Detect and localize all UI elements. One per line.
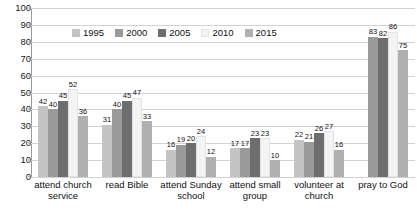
bar[interactable] xyxy=(378,38,388,177)
bar[interactable] xyxy=(68,89,78,177)
bar-chart: 0102030405060708090100 19952000200520102… xyxy=(0,0,417,221)
bar[interactable] xyxy=(186,143,196,177)
bar-groups: 4240455236314045473316192024121717232310… xyxy=(31,8,415,177)
bar[interactable] xyxy=(304,142,314,177)
bar[interactable] xyxy=(270,160,280,177)
bar-slot: 17 xyxy=(230,8,240,177)
bar-group: 83828675 xyxy=(351,8,415,177)
bar[interactable] xyxy=(58,101,68,177)
bar[interactable] xyxy=(240,148,250,177)
x-category-label: read Bible xyxy=(95,180,159,201)
bar-value-label: 12 xyxy=(207,148,215,156)
bar-slot: 33 xyxy=(142,8,152,177)
bar[interactable] xyxy=(38,106,48,177)
bar-value-label: 17 xyxy=(231,140,239,148)
bar-value-label: 40 xyxy=(49,101,57,109)
bar-value-label: 20 xyxy=(187,135,195,143)
bar-value-label: 31 xyxy=(103,116,111,124)
bar-value-label: 22 xyxy=(295,131,303,139)
bar-slot: 23 xyxy=(260,8,270,177)
bar-group: 1619202412 xyxy=(159,8,223,177)
bar-group: 1717232310 xyxy=(223,8,287,177)
bar-value-label: 21 xyxy=(305,133,313,141)
bar-slot: 42 xyxy=(38,8,48,177)
bar-slot: 86 xyxy=(388,8,398,177)
bar[interactable] xyxy=(122,101,132,177)
bar-slot: 10 xyxy=(270,8,280,177)
bar-slot: 82 xyxy=(378,8,388,177)
bar[interactable] xyxy=(112,109,122,177)
x-category-label: attend Sunday school xyxy=(159,180,223,201)
bar-slot: 45 xyxy=(122,8,132,177)
bar[interactable] xyxy=(132,98,142,177)
bar-value-label: 23 xyxy=(261,130,269,138)
x-category-label: volunteer at church xyxy=(287,180,351,201)
bar-value-label: 45 xyxy=(59,92,67,100)
bar-value-label: 47 xyxy=(133,89,141,97)
x-category-label: attend small group xyxy=(223,180,287,201)
bar[interactable] xyxy=(398,50,408,177)
bar-slot: 21 xyxy=(304,8,314,177)
bar-slot: 12 xyxy=(206,8,216,177)
bar[interactable] xyxy=(334,150,344,177)
bar-group: 4240455236 xyxy=(31,8,95,177)
bar-slot: 45 xyxy=(58,8,68,177)
bar[interactable] xyxy=(294,140,304,177)
bar[interactable] xyxy=(196,136,206,177)
bar-value-label: 86 xyxy=(389,23,397,31)
bar-slot: 16 xyxy=(334,8,344,177)
bar-value-label: 17 xyxy=(241,140,249,148)
bar-value-label: 16 xyxy=(335,141,343,149)
bar[interactable] xyxy=(48,109,58,177)
bar-slot: 17 xyxy=(240,8,250,177)
bar-value-label: 27 xyxy=(325,123,333,131)
bar[interactable] xyxy=(206,157,216,177)
bar-slot xyxy=(358,8,368,177)
bar-value-label: 23 xyxy=(251,130,259,138)
bar-slot: 47 xyxy=(132,8,142,177)
bar-slot: 75 xyxy=(398,8,408,177)
bar-value-label: 36 xyxy=(79,108,87,116)
bar-value-label: 75 xyxy=(399,42,407,50)
x-axis-category-labels: attend church serviceread Bibleattend Su… xyxy=(31,180,415,201)
bar[interactable] xyxy=(166,150,176,177)
bar-value-label: 40 xyxy=(113,101,121,109)
bar-slot: 36 xyxy=(78,8,88,177)
bar-value-label: 19 xyxy=(177,136,185,144)
bar-slot: 40 xyxy=(112,8,122,177)
bar-slot: 83 xyxy=(368,8,378,177)
bar-slot: 40 xyxy=(48,8,58,177)
bar-value-label: 83 xyxy=(369,28,377,36)
bar-value-label: 16 xyxy=(167,141,175,149)
bar-slot: 19 xyxy=(176,8,186,177)
gridline xyxy=(31,177,415,178)
bar[interactable] xyxy=(368,37,378,177)
bar[interactable] xyxy=(260,138,270,177)
x-category-label: pray to God xyxy=(351,180,415,201)
bar[interactable] xyxy=(230,148,240,177)
bar[interactable] xyxy=(142,121,152,177)
bar-value-label: 45 xyxy=(123,92,131,100)
bar-slot: 24 xyxy=(196,8,206,177)
bar-value-label: 24 xyxy=(197,128,205,136)
bar-value-label: 42 xyxy=(39,98,47,106)
bar-slot: 26 xyxy=(314,8,324,177)
bar-slot: 31 xyxy=(102,8,112,177)
bar-value-label: 82 xyxy=(379,30,387,38)
bar[interactable] xyxy=(102,125,112,177)
bar-slot: 16 xyxy=(166,8,176,177)
x-category-label: attend church service xyxy=(31,180,95,201)
bar-value-label: 26 xyxy=(315,125,323,133)
bar-slot: 20 xyxy=(186,8,196,177)
bar-value-label: 10 xyxy=(271,152,279,160)
bar-group: 2221262716 xyxy=(287,8,351,177)
bar[interactable] xyxy=(324,131,334,177)
bar[interactable] xyxy=(388,32,398,177)
bar-slot: 22 xyxy=(294,8,304,177)
bar[interactable] xyxy=(176,145,186,177)
bar-slot: 27 xyxy=(324,8,334,177)
bar[interactable] xyxy=(78,116,88,177)
bar[interactable] xyxy=(314,133,324,177)
bar[interactable] xyxy=(250,138,260,177)
bar-slot: 23 xyxy=(250,8,260,177)
